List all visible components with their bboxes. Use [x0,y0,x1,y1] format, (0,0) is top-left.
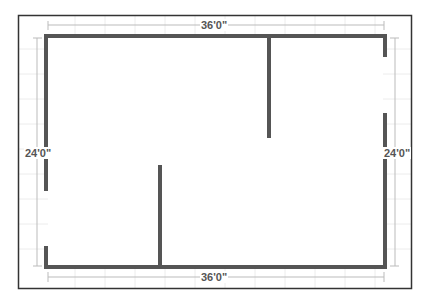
left-dimension-label: 24'0" [24,147,52,159]
right-dimension-label: 24'0" [383,147,411,159]
top-dimension-label: 36'0" [200,19,228,31]
bottom-dimension-label: 36'0" [200,271,228,283]
room-interior [48,38,383,265]
floor-plan-canvas [0,0,427,304]
